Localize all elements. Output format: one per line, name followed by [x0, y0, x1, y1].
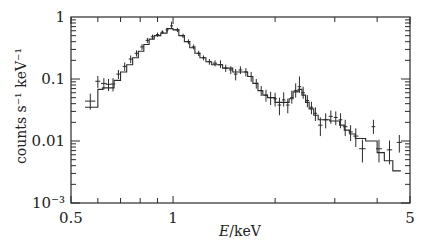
- data-point: [310, 102, 313, 115]
- data-point: [202, 55, 206, 60]
- data-point: [106, 79, 111, 91]
- data-point: [273, 93, 277, 107]
- data-points: [85, 22, 402, 165]
- data-point: [234, 69, 238, 80]
- x-tick-label: 5: [405, 209, 415, 227]
- data-point: [324, 113, 328, 128]
- y-tick-label: 1: [55, 8, 65, 26]
- data-point: [239, 66, 243, 74]
- data-point: [224, 65, 228, 72]
- data-point: [294, 83, 298, 97]
- data-point: [95, 76, 100, 88]
- data-point: [397, 135, 402, 153]
- y-tick-label: 0.01: [32, 132, 65, 150]
- y-axis-label: counts s⁻¹ keV⁻¹: [13, 48, 29, 164]
- data-point: [348, 125, 352, 141]
- data-point: [278, 98, 282, 116]
- data-point: [359, 140, 366, 163]
- data-point: [343, 120, 348, 136]
- data-point: [229, 66, 233, 74]
- data-point: [329, 111, 333, 124]
- data-point: [213, 60, 217, 66]
- data-point: [334, 111, 338, 125]
- plot-axes: [71, 17, 410, 203]
- data-point: [116, 70, 120, 79]
- data-point: [123, 62, 127, 70]
- data-point: [282, 92, 285, 106]
- data-point: [129, 55, 133, 63]
- data-point: [372, 120, 376, 134]
- data-point: [208, 59, 211, 65]
- data-point: [135, 50, 139, 56]
- model-histogram: [85, 29, 401, 171]
- data-point: [353, 128, 358, 147]
- tick-labels: 0.51510.10.0110⁻³: [32, 8, 415, 227]
- data-point: [269, 92, 272, 105]
- plot-frame: [71, 17, 410, 203]
- x-axis-label: E/keV: [218, 223, 262, 239]
- y-tick-label: 10⁻³: [32, 194, 65, 212]
- data-point: [301, 87, 305, 99]
- model-step-line: [85, 29, 401, 171]
- y-tick-label: 0.1: [41, 70, 65, 88]
- x-tick-label: 1: [168, 209, 178, 227]
- spectrum-chart: 0.51510.10.0110⁻³ E/keV counts s⁻¹ keV⁻¹: [0, 0, 429, 246]
